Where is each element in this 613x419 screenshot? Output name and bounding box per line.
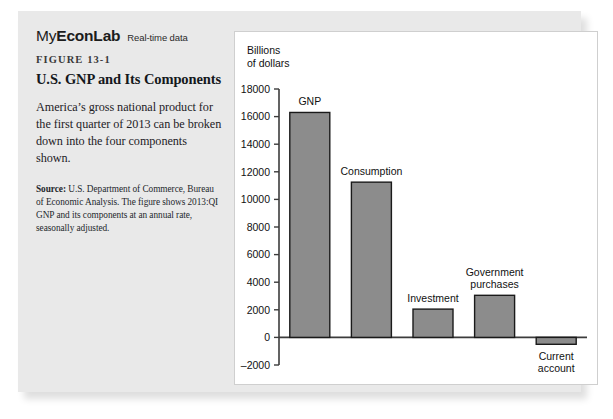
bar-chart: Billionsof dollars1800016000140001200010… [235,32,595,382]
y-axis-title-line1: Billions [247,44,280,56]
myeconlab-branding: MyEconLab Real-time data [36,27,222,45]
brand-tagline: Real-time data [127,32,187,43]
y-axis-tick-label: 18000 [241,83,270,95]
y-axis-tick-label: 4000 [247,276,271,288]
figure-number: FIGURE 13-1 [36,54,222,65]
bar-label: purchases [470,278,518,290]
bar [290,112,330,337]
caption-column: MyEconLab Real-time data FIGURE 13-1 U.S… [36,16,222,386]
y-axis-tick-label: 6000 [247,248,271,260]
y-axis-tick-label: 8000 [247,221,271,233]
bar [536,337,576,344]
bar-label: Current [539,350,574,362]
bar [351,182,391,337]
bar-label: GNP [298,95,321,107]
figure-source-label: Source: [36,184,66,194]
figure-screenshot: MyEconLab Real-time data FIGURE 13-1 U.S… [0,0,613,419]
figure-card: MyEconLab Real-time data FIGURE 13-1 U.S… [18,11,581,392]
chart-panel: Billionsof dollars1800016000140001200010… [234,31,598,385]
brand-name-light: My [36,27,56,44]
bar-label: Consumption [340,165,402,177]
bar [413,309,453,337]
figure-description: America’s gross national product for the… [36,99,222,167]
bar-label: Government [466,266,524,278]
bar [475,295,515,337]
y-axis-tick-label: 16000 [241,110,270,122]
y-axis-tick-label: –2000 [241,359,270,371]
y-axis-tick-label: 12000 [241,166,270,178]
brand-name: MyEconLab [36,27,120,45]
brand-name-bold: EconLab [56,27,120,44]
y-axis-tick-label: 0 [264,331,270,343]
y-axis-tick-label: 2000 [247,304,271,316]
y-axis-title-line2: of dollars [247,57,290,69]
figure-source: Source: U.S. Department of Commerce, Bur… [36,183,222,234]
bar-label: account [538,362,575,374]
bar-label: Investment [407,292,458,304]
y-axis-tick-label: 10000 [241,193,270,205]
figure-title: U.S. GNP and Its Components [36,71,222,88]
y-axis-tick-label: 14000 [241,138,270,150]
